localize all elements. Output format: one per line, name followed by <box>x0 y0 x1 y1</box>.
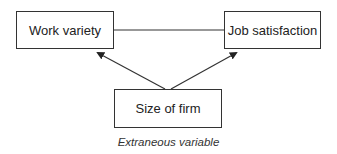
node-size-of-firm: Size of firm <box>114 89 222 128</box>
arrow-size-to-work-variety <box>98 53 165 89</box>
caption: Extraneous variable <box>0 136 337 148</box>
node-label: Size of firm <box>135 101 200 116</box>
node-job-satisfaction: Job satisfaction <box>224 11 321 49</box>
node-label: Job satisfaction <box>228 23 318 38</box>
arrow-size-to-job-satisfaction <box>171 53 236 89</box>
node-label: Work variety <box>29 23 101 38</box>
node-work-variety: Work variety <box>16 11 114 49</box>
